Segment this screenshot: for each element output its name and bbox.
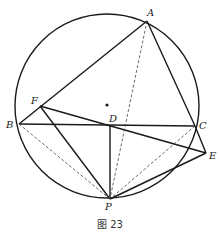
segment-AB <box>19 21 147 124</box>
label-B: B <box>5 119 13 130</box>
label-P: P <box>104 201 112 212</box>
segment-PE <box>110 153 206 199</box>
segment-FE <box>40 106 206 153</box>
segment-AC <box>147 21 195 126</box>
label-C: C <box>199 120 207 131</box>
label-F: F <box>30 95 39 106</box>
circle-center-dot <box>105 103 108 106</box>
label-A: A <box>146 7 154 18</box>
segment-FP <box>40 106 110 199</box>
label-E: E <box>208 150 217 161</box>
label-D: D <box>108 113 117 124</box>
geometry-figure: A B C D E F P 图 23 <box>0 0 220 232</box>
figure-caption: 图 23 <box>97 219 123 230</box>
dashed-CP <box>110 126 195 199</box>
